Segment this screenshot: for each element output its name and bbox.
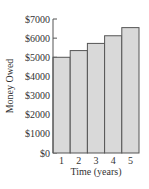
- bar-chart: $0$1000$2000$3000$4000$5000$6000$7000 12…: [0, 0, 149, 189]
- y-tick-label: $5000: [25, 52, 50, 63]
- bars: [53, 28, 139, 153]
- x-axis-tick-labels: 12345: [59, 155, 133, 166]
- x-tick-label: 4: [111, 155, 116, 166]
- y-tick-label: $3000: [25, 90, 50, 101]
- x-tick-label: 5: [128, 155, 133, 166]
- y-tick-label: $4000: [25, 71, 50, 82]
- x-tick-label: 1: [59, 155, 64, 166]
- y-tick-label: $7000: [25, 14, 50, 25]
- y-tick-label: $6000: [25, 33, 50, 44]
- y-tick-label: $2000: [25, 109, 50, 120]
- bar-year-4: [105, 36, 122, 153]
- y-tick-label: $0: [40, 148, 50, 159]
- y-axis-title: Money Owed: [4, 59, 15, 114]
- x-tick-label: 2: [76, 155, 81, 166]
- x-tick-label: 3: [94, 155, 99, 166]
- y-axis-ticks: $0$1000$2000$3000$4000$5000$6000$7000: [25, 14, 57, 159]
- bar-year-3: [87, 43, 104, 153]
- bar-year-1: [53, 57, 70, 153]
- bar-year-2: [70, 51, 87, 153]
- y-tick-label: $1000: [25, 128, 50, 139]
- bar-year-5: [122, 28, 139, 153]
- x-axis-title: Time (years): [70, 166, 121, 178]
